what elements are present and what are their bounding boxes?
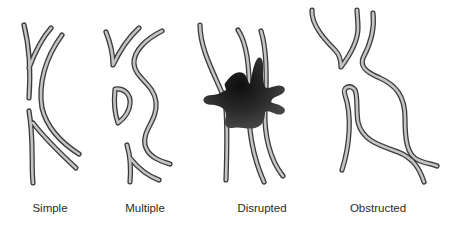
obstructed-lower-fragment — [342, 87, 424, 182]
hematoma-blob — [203, 58, 284, 129]
multiple-wavy-tube — [134, 31, 170, 164]
obstructed-upper-v-fragment — [312, 10, 358, 67]
label-obstructed: Obstructed — [350, 202, 406, 214]
label-multiple: Multiple — [125, 202, 165, 214]
label-disrupted: Disrupted — [237, 202, 286, 214]
multiple-lower-fragment — [127, 145, 159, 182]
panel-multiple-illustration — [106, 28, 170, 182]
panel-obstructed-illustration — [312, 10, 437, 182]
panel-disrupted-illustration — [200, 25, 285, 182]
fracture-types-diagram — [0, 0, 457, 230]
multiple-middle-fragment — [114, 89, 130, 123]
panel-simple-illustration — [24, 25, 79, 183]
label-simple: Simple — [32, 202, 67, 214]
